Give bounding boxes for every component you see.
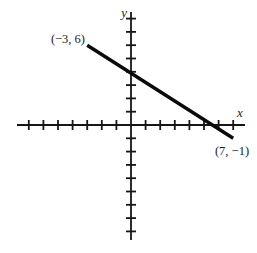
point-label-end: (7, −1) xyxy=(215,144,249,158)
point-label-start: (−3, 6) xyxy=(51,32,85,46)
line-graph-figure: x y (−3, 6) (7, −1) xyxy=(0,0,257,253)
coordinate-plane: x y (−3, 6) (7, −1) xyxy=(0,0,257,253)
y-axis-label: y xyxy=(119,5,127,20)
x-axis-label: x xyxy=(236,105,243,120)
